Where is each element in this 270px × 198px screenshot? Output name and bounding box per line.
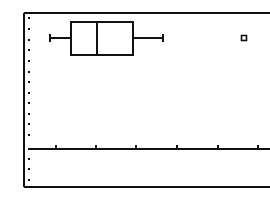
y-dot	[28, 49, 30, 51]
y-dot	[28, 113, 30, 115]
y-dot	[28, 39, 30, 41]
y-dot	[28, 17, 30, 19]
y-dot	[28, 123, 30, 125]
outlier-square-marker	[242, 36, 247, 41]
y-dot	[28, 81, 30, 83]
y-dot	[28, 134, 30, 136]
y-dot	[28, 60, 30, 62]
y-dot	[28, 158, 30, 160]
y-dot	[28, 179, 30, 181]
outlier-markers	[242, 36, 247, 41]
x-axis	[28, 145, 270, 149]
y-dot	[28, 168, 30, 170]
y-dot	[28, 92, 30, 94]
box-plot-screen	[0, 0, 270, 198]
y-dot	[28, 102, 30, 104]
y-dot	[28, 71, 30, 73]
y-axis-dots	[28, 17, 30, 181]
box-plot	[50, 22, 163, 55]
y-dot	[28, 28, 30, 30]
box-iqr	[71, 22, 133, 55]
plot-frame	[24, 13, 270, 187]
